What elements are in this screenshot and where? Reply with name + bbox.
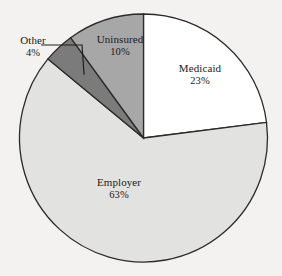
pie-chart: Medicaid 23% Employer 63% Other 4% Unins…: [0, 0, 282, 276]
pie-label-medicaid-name: Medicaid: [163, 62, 237, 75]
pie-label-employer: Employer 63%: [69, 176, 169, 201]
pie-label-uninsured-value: 10%: [82, 46, 158, 58]
pie-label-other: Other 4%: [6, 34, 60, 59]
pie-label-medicaid-value: 23%: [163, 75, 237, 87]
pie-label-uninsured: Uninsured 10%: [82, 33, 158, 58]
pie-label-medicaid: Medicaid 23%: [163, 62, 237, 87]
pie-label-employer-name: Employer: [69, 176, 169, 189]
pie-label-uninsured-name: Uninsured: [82, 33, 158, 46]
pie-label-other-name: Other: [6, 34, 60, 47]
pie-label-employer-value: 63%: [69, 189, 169, 201]
pie-label-other-value: 4%: [6, 47, 60, 59]
